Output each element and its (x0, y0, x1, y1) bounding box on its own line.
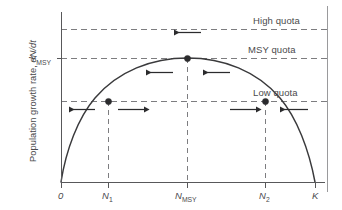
population-growth-rate-figure: Population growth rate, dN/dt YMSY High … (0, 0, 342, 210)
nmsy-point (184, 55, 190, 61)
n2-low-quota-point (262, 98, 268, 104)
x-axis-label-n1-base: N (102, 190, 109, 201)
x-axis-label-0-base: 0 (58, 190, 63, 201)
high-quota-label: High quota (253, 16, 300, 26)
low-quota-label: Low quota (253, 88, 298, 98)
y-axis-title-prefix: Population growth rate, (28, 63, 38, 162)
x-axis-ticks (62, 183, 316, 189)
x-axis-label-0: 0 (58, 191, 63, 204)
n1-low-quota-point (105, 98, 111, 104)
x-axis-label-nmsy: NMSY (175, 191, 197, 204)
x-axis-label-n1: N1 (102, 191, 113, 204)
msy-quota-label: MSY quota (248, 45, 296, 55)
x-axis-label-n1-sub: 1 (109, 196, 113, 203)
x-axis-label-n2-sub: 2 (266, 196, 270, 203)
x-axis-label-nmsy-base: N (175, 190, 182, 201)
equilibrium-dashed-verticals (109, 58, 266, 182)
ymsy-axis-label: YMSY (30, 54, 51, 67)
x-axis-label-n2: N2 (259, 191, 270, 204)
y-axis-title: Population growth rate, dN/dt (28, 16, 38, 186)
x-axis-label-k-base: K (312, 190, 318, 201)
ymsy-subscript: MSY (36, 59, 51, 66)
x-axis-label-k: K (312, 191, 318, 204)
figure-canvas (0, 0, 342, 210)
x-axis-label-n2-base: N (259, 190, 266, 201)
x-axis-label-nmsy-sub: MSY (182, 196, 197, 203)
